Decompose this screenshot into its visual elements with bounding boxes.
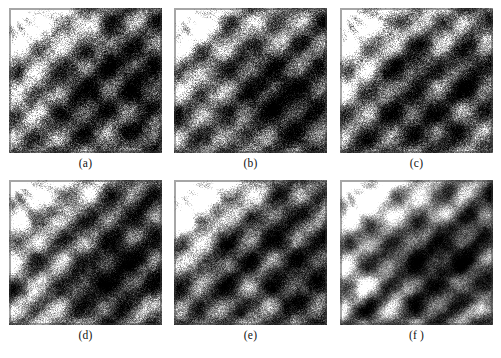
panel-image-a bbox=[9, 8, 162, 153]
panel-caption-b: (b) bbox=[174, 156, 327, 170]
panel-caption-a: (a) bbox=[9, 156, 162, 170]
panel-canvas bbox=[174, 180, 327, 325]
figure-panel-c: (c) bbox=[340, 0, 495, 175]
panel-canvas bbox=[174, 8, 327, 153]
panel-image-c bbox=[340, 8, 493, 153]
panel-image-f bbox=[340, 180, 493, 325]
figure-panel-a: (a) bbox=[9, 0, 164, 175]
figure-panel-b: (b) bbox=[174, 0, 329, 175]
panel-canvas bbox=[340, 8, 493, 153]
panel-caption-f: (f ) bbox=[340, 328, 493, 342]
panel-caption-c: (c) bbox=[340, 156, 493, 170]
panel-canvas bbox=[9, 8, 162, 153]
figure-row-top: (a) (b) (c) bbox=[0, 0, 501, 175]
panel-image-d bbox=[9, 180, 162, 325]
figure-panel-d: (d) bbox=[9, 172, 164, 347]
figure-panel-grid: (a) (b) (c) (d) (e) (f ) bbox=[0, 0, 501, 358]
panel-image-e bbox=[174, 180, 327, 325]
panel-caption-d: (d) bbox=[9, 328, 162, 342]
panel-caption-e: (e) bbox=[174, 328, 327, 342]
figure-panel-e: (e) bbox=[174, 172, 329, 347]
panel-canvas bbox=[340, 180, 493, 325]
panel-canvas bbox=[9, 180, 162, 325]
figure-panel-f: (f ) bbox=[340, 172, 495, 347]
figure-row-bottom: (d) (e) (f ) bbox=[0, 172, 501, 347]
panel-image-b bbox=[174, 8, 327, 153]
